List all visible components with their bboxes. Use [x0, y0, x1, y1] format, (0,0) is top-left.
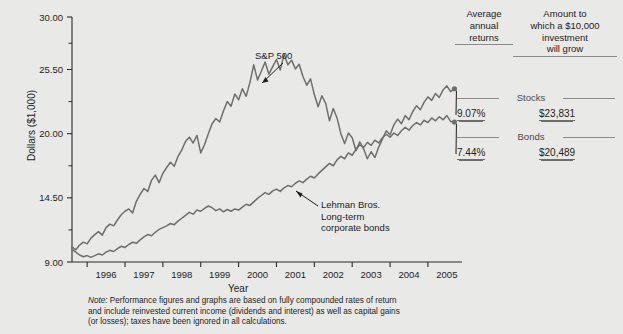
header-amount-growth: Amount to which a $10,000 investment wil…	[513, 8, 617, 57]
bonds-row-label: Bonds	[499, 131, 563, 142]
y-tick-label: 30.00	[39, 12, 63, 23]
footnote: Note: Performance figures and graphs are…	[88, 296, 528, 328]
x-tick-label: 2002	[323, 269, 344, 280]
header-growth-line2: which a $10,000	[513, 20, 617, 32]
bonds-return-value: 7.44%	[457, 147, 485, 160]
figure-root: 9.0014.5020.0025.5030.001996199719981999…	[0, 0, 623, 334]
header-returns-rule	[455, 44, 513, 45]
x-tick-label: 1999	[209, 269, 230, 280]
summary-panel: Average annual returns Amount to which a…	[455, 8, 619, 57]
series-line-bonds	[72, 116, 454, 258]
header-returns-line2: annual	[455, 20, 513, 32]
y-tick-label: 20.00	[39, 128, 63, 139]
x-tick-label: 1997	[133, 269, 154, 280]
bonds-annotation-line1: Lehman Bros.	[321, 199, 390, 211]
bonds-annotation-label: Lehman Bros. Long-term corporate bonds	[321, 199, 390, 234]
x-axis-title: Year	[228, 283, 248, 294]
header-growth-line1: Amount to	[513, 8, 617, 20]
header-growth-line4: will grow	[513, 43, 617, 55]
x-tick-label: 2004	[398, 269, 419, 280]
summary-panel-headers: Average annual returns Amount to which a…	[455, 8, 619, 57]
header-growth-rule	[513, 56, 617, 57]
series-line-sp500	[72, 54, 454, 249]
footnote-lead: Note:	[88, 296, 108, 305]
sp500-annotation-label: S&P 500	[255, 50, 292, 62]
footnote-line2: and include reinvested current income (d…	[88, 307, 400, 316]
footnote-line3: (or losses); taxes have been ignored in …	[88, 317, 287, 326]
y-tick-label: 14.50	[39, 192, 63, 203]
x-tick-label: 1998	[171, 269, 192, 280]
header-returns-line1: Average	[455, 8, 513, 20]
bonds-annotation-line3: corporate bonds	[321, 222, 390, 234]
header-growth-line3: investment	[513, 32, 617, 44]
y-tick-label: 9.00	[45, 257, 64, 268]
stocks-amount-value: $23,831	[539, 108, 575, 121]
footnote-line1: Performance figures and graphs are based…	[108, 296, 397, 305]
x-tick-label: 2000	[247, 269, 268, 280]
x-tick-label: 2003	[361, 269, 382, 280]
x-tick-label: 1996	[96, 269, 117, 280]
x-tick-label: 2005	[436, 269, 457, 280]
x-tick-label: 2001	[285, 269, 306, 280]
stocks-row-label: Stocks	[499, 92, 563, 103]
header-returns-line3: returns	[455, 32, 513, 44]
stocks-return-value: 9.07%	[457, 108, 485, 121]
header-average-annual-returns: Average annual returns	[455, 8, 513, 57]
bonds-annotation-line2: Long-term	[321, 211, 390, 223]
y-axis-title: Dollars ($1,000)	[26, 71, 37, 181]
y-tick-label: 25.50	[39, 64, 63, 75]
series-endpoint-sp500	[452, 86, 457, 91]
bonds-amount-value: $20,489	[539, 147, 575, 160]
bonds-arrowhead	[296, 191, 303, 198]
